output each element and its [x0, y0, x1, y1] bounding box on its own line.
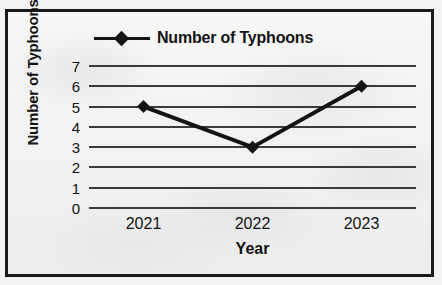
line-chart: Number of Typhoons Number of Typhoons 76…: [8, 12, 431, 274]
chart-legend: Number of Typhoons: [94, 29, 313, 47]
series-line-number-of-typhoons: [89, 66, 416, 208]
y-axis-tick-label: 4: [58, 119, 80, 134]
chart-frame: Number of Typhoons Number of Typhoons 76…: [5, 9, 434, 277]
y-axis-tick-label: 2: [58, 160, 80, 175]
x-axis-tick-labels: 202120222023: [89, 215, 416, 237]
legend-diamond-marker-icon: [114, 31, 130, 47]
data-point-diamond-marker: [137, 100, 150, 113]
y-axis-tick-label: 3: [58, 140, 80, 155]
y-axis-tick-labels: 76543210: [58, 66, 80, 208]
y-axis-tick-label: 6: [58, 79, 80, 94]
x-axis-tick-label: 2022: [235, 215, 271, 233]
y-axis-tick-label: 0: [58, 201, 80, 216]
y-axis-tick-label: 7: [58, 59, 80, 74]
x-axis-tick-label: 2021: [126, 215, 162, 233]
legend-line-diamond-icon: [94, 31, 150, 45]
x-axis-tick-label: 2023: [344, 215, 380, 233]
y-axis-title: Number of Typhoons: [24, 0, 41, 160]
series-polyline: [144, 86, 362, 147]
y-axis-tick-label: 1: [58, 180, 80, 195]
y-axis-tick-label: 5: [58, 99, 80, 114]
x-axis-title: Year: [89, 240, 416, 258]
plot-area: [89, 66, 416, 208]
legend-series-label: Number of Typhoons: [157, 29, 313, 47]
